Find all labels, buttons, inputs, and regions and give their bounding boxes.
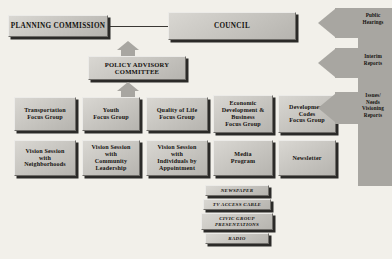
box-vision-session-community-leadership[interactable]: Vision SessionwithCommunityLeadership xyxy=(82,140,140,176)
label-interim-reports: InterimReports xyxy=(356,53,390,66)
connector-commission-to-council xyxy=(108,26,168,27)
box-focus-group-economic-development[interactable]: EconomicDevelopment &BusinessFocus Group xyxy=(213,95,273,133)
box-council[interactable]: COUNCIL xyxy=(168,12,296,40)
box-vision-session-individuals[interactable]: Vision SessionwithIndividuals byAppointm… xyxy=(146,140,208,176)
box-media-program[interactable]: MediaProgram xyxy=(213,140,273,176)
box-focus-group-transportation[interactable]: TransportationFocus Group xyxy=(14,97,76,131)
chip-radio-label: RADIO xyxy=(207,236,267,242)
box-focus-group-youth[interactable]: YouthFocus Group xyxy=(82,97,140,131)
chip-tv-access-cable-label: TV ACCESS CABLE xyxy=(205,202,269,208)
focus-group-quality-of-life-label: Quality of LifeFocus Group xyxy=(148,107,206,121)
chip-civic-group-presentations-label: CIVIC GROUPPRESENTATIONS xyxy=(203,216,271,227)
planning-commission-label: PLANNING COMMISSION xyxy=(10,22,106,30)
chip-newspaper[interactable]: NEWSPAPER xyxy=(205,185,269,196)
vision-session-community-leadership-label: Vision SessionwithCommunityLeadership xyxy=(84,144,138,171)
focus-group-economic-development-label: EconomicDevelopment &BusinessFocus Group xyxy=(215,100,271,127)
vision-session-neighborhoods-label: Vision SessionwithNeighborhoods xyxy=(16,148,74,168)
newsletter-label: Newsletter xyxy=(280,155,334,162)
arrow-groups-to-pac xyxy=(108,82,148,98)
vision-session-individuals-label: Vision SessionwithIndividuals byAppointm… xyxy=(148,144,206,171)
chip-tv-access-cable[interactable]: TV ACCESS CABLE xyxy=(203,199,271,210)
focus-group-transportation-label: TransportationFocus Group xyxy=(16,107,74,121)
chip-newspaper-label: NEWSPAPER xyxy=(207,188,267,194)
label-public-hearings: PublicHearings xyxy=(356,12,390,25)
org-flowchart: PLANNING COMMISSION COUNCIL POLICY ADVIS… xyxy=(0,0,392,259)
box-focus-group-quality-of-life[interactable]: Quality of LifeFocus Group xyxy=(146,97,208,131)
chip-civic-group-presentations[interactable]: CIVIC GROUPPRESENTATIONS xyxy=(201,213,273,230)
box-policy-advisory-committee[interactable]: POLICY ADVISORYCOMMITTEE xyxy=(88,56,186,80)
council-label: COUNCIL xyxy=(170,22,294,30)
box-vision-session-neighborhoods[interactable]: Vision SessionwithNeighborhoods xyxy=(14,140,76,176)
focus-group-youth-label: YouthFocus Group xyxy=(84,107,138,121)
label-issues-needs-visioning-reports: Issues/NeedsVisioningReports xyxy=(355,92,391,119)
box-planning-commission[interactable]: PLANNING COMMISSION xyxy=(8,15,108,37)
chip-radio[interactable]: RADIO xyxy=(205,233,269,244)
policy-advisory-committee-label: POLICY ADVISORYCOMMITTEE xyxy=(90,61,184,76)
media-program-label: MediaProgram xyxy=(215,151,271,165)
box-newsletter[interactable]: Newsletter xyxy=(278,140,336,176)
